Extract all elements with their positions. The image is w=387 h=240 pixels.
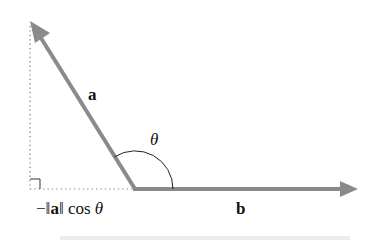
projection-label-theta: θ (95, 199, 103, 218)
vector-a-shaft (41, 38, 135, 189)
projection-label-norm-cos: ‖ cos (59, 199, 95, 218)
vector-b-label: b (236, 199, 245, 218)
right-angle-marker (30, 179, 40, 189)
vector-b-arrowhead-icon (340, 181, 358, 197)
bottom-shadow (60, 236, 350, 240)
vector-a-label: a (88, 85, 97, 104)
diagram-canvas: a θ b −‖a‖ cos θ (0, 0, 387, 240)
projection-label: −‖a‖ cos θ (36, 199, 103, 218)
projection-label-prefix: −‖ (36, 199, 50, 218)
vector-diagram: a θ b −‖a‖ cos θ (0, 0, 387, 240)
angle-theta-label: θ (150, 130, 158, 149)
